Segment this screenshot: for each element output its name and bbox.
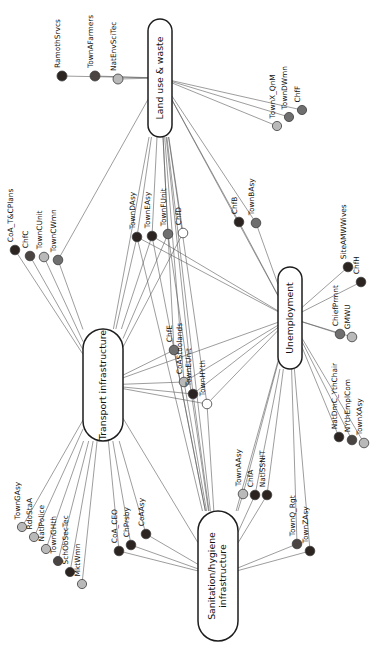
labels-layer: RamothSrvcsTownAFarmersNatEnvSciTecTownX… <box>6 15 364 577</box>
edge <box>131 545 198 569</box>
edge <box>238 495 267 543</box>
node-label-TownEAsy: TownEAsy <box>143 191 152 229</box>
graph-node-ChfC[interactable] <box>25 251 35 261</box>
graph-node-CoA_CEO[interactable] <box>114 546 124 556</box>
node-label-NYthEmplCom: NYthEmplCom <box>343 379 352 432</box>
hub-label-unemp: Unemployment <box>284 282 295 354</box>
node-label-NatDmC_YthChair: NatDmC_YthChair <box>330 362 339 429</box>
graph-node-ChfF[interactable] <box>297 105 306 114</box>
edge <box>172 100 278 296</box>
network-diagram-canvas: Land use & wasteTransport infrastructure… <box>0 0 387 662</box>
graph-node-TownDWmn[interactable] <box>284 112 293 121</box>
graph-node-RamothSrvcs[interactable] <box>57 71 67 81</box>
graph-node-ChPrsby[interactable] <box>126 540 136 550</box>
edge <box>302 267 348 307</box>
node-label-TownCWmn: TownCWmn <box>49 209 58 253</box>
edge <box>238 495 255 532</box>
node-label-TownGHth: TownGHth <box>49 516 58 555</box>
node-label-TownAAsy: TownAAsy <box>234 449 243 488</box>
graph-node-TownEAsy[interactable] <box>147 231 157 241</box>
node-label-CoAAsy: CoAAsy <box>137 497 146 526</box>
node-label-NatEnvSciTec: NatEnvSciTec <box>109 22 118 71</box>
edge <box>44 257 83 342</box>
node-label-ChfH: ChfH <box>352 256 361 274</box>
edge <box>172 96 256 223</box>
node-label-ChfC: ChfC <box>21 231 30 249</box>
node-label-ChfF: ChfF <box>293 86 302 103</box>
graph-node-TownCWmn[interactable] <box>53 255 63 265</box>
graph-node-NatEnvSciTec[interactable] <box>113 74 123 84</box>
node-label-ChfA: ChfA <box>246 470 255 488</box>
graph-node-TownX_QnM[interactable] <box>272 121 281 130</box>
node-label-TownXAsy: TownXAsy <box>355 398 364 436</box>
edge <box>123 418 198 543</box>
graph-node-ChfA[interactable] <box>250 490 260 500</box>
graph-node-GMWU[interactable] <box>347 332 357 342</box>
hub-label-transport: Transport infrastructure <box>97 330 108 441</box>
graph-node-NatDmC_YthChair[interactable] <box>334 432 344 442</box>
graph-node-TownFUnit[interactable] <box>163 229 173 239</box>
edge <box>137 237 278 312</box>
node-label-MktWmn: MktWmn <box>73 543 82 576</box>
graph-node-MktWmn[interactable] <box>77 579 86 588</box>
edge <box>267 369 283 495</box>
hub-label-sanit: infrastructure <box>217 544 228 608</box>
node-label-TownBAsy: TownBAsy <box>247 178 256 216</box>
node-label-TownEUnit: TownEUnit <box>184 348 193 387</box>
edge <box>152 236 278 311</box>
edge <box>30 256 83 350</box>
graph-node-TownCUnit[interactable] <box>39 252 49 262</box>
network-graph: Land use & wasteTransport infrastructure… <box>0 0 387 662</box>
edge <box>15 250 83 354</box>
node-label-NatlSSNIT: NatlSSNIT <box>258 450 267 487</box>
edge <box>238 544 297 568</box>
edge <box>113 137 149 329</box>
edge <box>123 382 184 384</box>
graph-node-ChiefPrmnt[interactable] <box>335 329 345 339</box>
edge <box>207 330 278 404</box>
node-label-CoAStoolands: CoAStoolands <box>175 323 184 374</box>
edge <box>119 551 198 571</box>
edge <box>238 551 310 571</box>
graph-node-CoAAsy[interactable] <box>141 529 151 539</box>
node-label-TownGAsy: TownGAsy <box>13 481 22 520</box>
node-label-TownHYth: TownHYth <box>198 360 207 397</box>
graph-node-TownEUnit[interactable] <box>188 389 198 399</box>
graph-node-TownDAsy[interactable] <box>132 232 142 242</box>
edge <box>58 260 83 329</box>
graph-node-TownAFarmers[interactable] <box>90 71 100 81</box>
node-label-ChPrsby: ChPrsby <box>122 506 131 537</box>
node-label-ChfB: ChfB <box>230 197 239 215</box>
graph-node-ChfH[interactable] <box>356 277 366 287</box>
graph-node-ChfB[interactable] <box>234 217 244 227</box>
graph-node-TownXAsy[interactable] <box>359 438 369 448</box>
graph-node-NYthEmplCom[interactable] <box>347 435 357 445</box>
node-label-ChfE: ChfE <box>165 325 174 342</box>
node-label-ChiefPrmnt: ChiefPrmnt <box>331 285 340 326</box>
edge <box>152 137 157 236</box>
hub-label-sanit: Sanitation/hygiene <box>206 532 217 620</box>
node-label-SchObSecTec: SchObSecTec <box>61 515 70 564</box>
node-label-SiteAMWWives: SiteAMWWives <box>339 204 348 259</box>
node-label-TownDAsy: TownDAsy <box>128 191 137 230</box>
graph-node-TownHYth[interactable] <box>202 399 212 409</box>
edge <box>116 237 137 329</box>
edge <box>239 222 278 295</box>
graph-node-TownZAsy[interactable] <box>305 546 315 556</box>
node-label-CoA_T&CPlans: CoA_T&CPlans <box>6 189 15 243</box>
graph-node-ChfD[interactable] <box>178 228 188 238</box>
edges-layer <box>15 76 364 584</box>
node-label-TownZAsy: TownZAsy <box>301 506 310 544</box>
graph-node-TownAAsy[interactable] <box>238 489 248 499</box>
hub-label-land: Land use & waste <box>154 36 165 119</box>
node-label-TownX_QnM: TownX_QnM <box>268 74 277 119</box>
graph-node-CoA_T&CPlans[interactable] <box>10 245 20 255</box>
graph-node-NatlSSNIT[interactable] <box>262 490 272 500</box>
graph-node-TownBAsy[interactable] <box>251 218 261 228</box>
node-label-CoA_CEO: CoA_CEO <box>110 509 119 543</box>
node-label-RamothSrvcs: RamothSrvcs <box>53 19 62 68</box>
edge <box>207 404 214 511</box>
node-label-TownAFarmers: TownAFarmers <box>86 15 95 69</box>
node-label-TownQ_Rgt: TownQ_Rgt <box>288 495 297 537</box>
edge <box>193 394 209 511</box>
